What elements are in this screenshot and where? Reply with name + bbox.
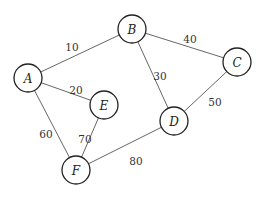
node-label: B bbox=[127, 23, 137, 37]
edge-A-B bbox=[28, 29, 132, 78]
node-A: A bbox=[14, 64, 42, 92]
node-D: D bbox=[160, 107, 188, 135]
node-E: E bbox=[90, 91, 118, 119]
edge-weight-label: 40 bbox=[183, 33, 196, 45]
node-label: D bbox=[168, 115, 179, 129]
node-label: A bbox=[23, 72, 33, 86]
node-label: F bbox=[71, 164, 81, 178]
node-B: B bbox=[118, 15, 146, 43]
edge-weight-label: 50 bbox=[208, 96, 221, 108]
node-F: F bbox=[62, 156, 90, 184]
node-C: C bbox=[223, 48, 251, 76]
edge-weight-label: 70 bbox=[78, 133, 91, 145]
edge-weight-label: 80 bbox=[129, 155, 142, 167]
weighted-graph-diagram: 1020403050607080ABCDEF bbox=[0, 0, 262, 198]
edge-D-F bbox=[76, 121, 174, 170]
node-label: E bbox=[99, 99, 109, 113]
edge-weight-label: 10 bbox=[65, 41, 78, 53]
edge-weight-label: 30 bbox=[153, 70, 166, 82]
edge-weight-label: 60 bbox=[39, 128, 52, 140]
graph-svg: 1020403050607080ABCDEF bbox=[0, 0, 262, 198]
node-label: C bbox=[232, 56, 241, 70]
edge-weight-label: 20 bbox=[69, 84, 82, 96]
